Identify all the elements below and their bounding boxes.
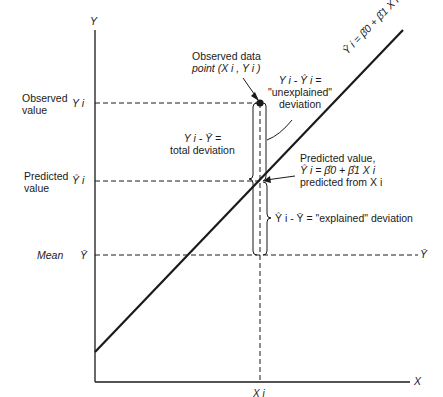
- unexplained-line3: deviation: [268, 98, 332, 110]
- predicted-annotation-line1: Predicted value,: [300, 152, 382, 164]
- total-line2: total deviation: [170, 144, 235, 156]
- arrowhead-icon: [251, 92, 259, 101]
- y-axis-label: Y: [90, 15, 97, 27]
- predicted-line2: value: [24, 182, 68, 194]
- total-line1: Y i - Ȳ =: [170, 132, 235, 144]
- total-deviation-annotation: Y i - Ȳ = total deviation: [170, 132, 235, 156]
- predicted-annotation-line3: predicted from X i: [300, 176, 382, 188]
- explained-annotation: Ŷ i - Ȳ = "explained" deviation: [275, 212, 413, 224]
- regression-line: [95, 30, 403, 352]
- unexplained-annotation: Y i - Ŷ i = "unexplained" deviation: [268, 74, 332, 110]
- observed-point-line2: point (X i , Y i ): [192, 62, 261, 74]
- x-axis-label: X: [414, 375, 421, 387]
- unexplained-line1: Y i - Ŷ i =: [268, 74, 332, 86]
- total-bracket: [249, 103, 257, 255]
- mean-right-label: Ȳ: [420, 248, 427, 260]
- observed-value-label: Observed value: [22, 92, 68, 116]
- observed-point-annotation: Observed data point (X i , Y i ): [192, 50, 261, 74]
- unexplained-leader: [267, 120, 292, 140]
- explained-bracket: [263, 182, 271, 255]
- predicted-annotation-line2: Ŷ i = β̂0 + β̂1 X i: [300, 164, 382, 176]
- unexplained-line2: "unexplained": [268, 86, 332, 98]
- predicted-annotation: Predicted value, Ŷ i = β̂0 + β̂1 X i pre…: [300, 152, 382, 188]
- observed-point: [256, 99, 263, 106]
- xi-tick-label: X i: [253, 388, 265, 397]
- predicted-line1: Predicted: [24, 170, 68, 182]
- unexplained-bracket: [263, 103, 266, 181]
- predicted-value-label: Predicted value: [24, 170, 68, 194]
- yhat-tick-label: Ŷ i: [72, 174, 84, 186]
- observed-line1: Observed: [22, 92, 68, 104]
- observed-point-line1: Observed data: [192, 50, 261, 62]
- ybar-tick-label: Ȳ: [80, 249, 87, 261]
- mean-label: Mean: [37, 249, 63, 261]
- yi-tick-label: Y i: [72, 97, 84, 109]
- observed-line2: value: [22, 104, 68, 116]
